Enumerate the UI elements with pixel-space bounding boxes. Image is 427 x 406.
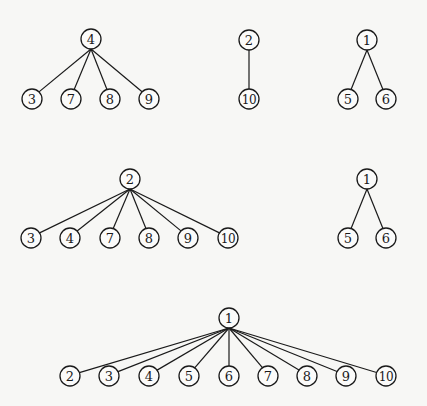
node-label: 7 [67, 92, 75, 107]
tree-child-node: 9 [336, 366, 356, 386]
tree-child-node: 5 [338, 89, 358, 109]
tree-child-node: 9 [139, 89, 159, 109]
node-label: 5 [185, 369, 193, 384]
node-label: 4 [87, 32, 95, 47]
tree-child-node: 5 [338, 228, 358, 248]
tree-edge [195, 328, 229, 368]
node-label: 10 [379, 370, 393, 384]
edges-layer [39, 49, 383, 373]
tree-child-node: 10 [218, 228, 238, 248]
tree-root-node: 1 [357, 169, 377, 189]
tree-forest-svg: 437892101562347891015612345678910 [0, 0, 427, 406]
node-label: 3 [105, 369, 113, 384]
tree-edge [39, 49, 91, 92]
node-label: 2 [245, 33, 253, 48]
node-label: 8 [145, 231, 153, 246]
tree-edge [367, 50, 383, 89]
node-label: 7 [264, 369, 272, 384]
tree-edge [367, 189, 383, 228]
tree-edge [77, 189, 130, 231]
tree-edge [74, 49, 91, 90]
tree-child-node: 8 [100, 89, 120, 109]
tree-edge [118, 328, 229, 372]
node-label: 1 [363, 172, 371, 187]
tree-edge [157, 328, 229, 370]
tree-edge [229, 328, 377, 373]
tree-child-node: 7 [258, 366, 278, 386]
node-label: 4 [66, 231, 74, 246]
tree-edge [351, 50, 367, 89]
tree-root-node: 4 [81, 29, 101, 49]
tree-child-node: 3 [21, 228, 41, 248]
node-label: 4 [145, 369, 153, 384]
tree-child-node: 6 [376, 228, 396, 248]
tree-child-node: 8 [139, 228, 159, 248]
tree-edge [229, 328, 337, 372]
tree-child-node: 8 [297, 366, 317, 386]
node-label: 9 [145, 92, 153, 107]
tree-edge [79, 328, 229, 373]
tree-child-node: 4 [139, 366, 159, 386]
tree-child-node: 7 [61, 89, 81, 109]
tree-child-node: 3 [99, 366, 119, 386]
tree-root-node: 1 [357, 30, 377, 50]
tree-child-node: 2 [60, 366, 80, 386]
node-label: 6 [382, 92, 390, 107]
node-label: 8 [106, 92, 114, 107]
tree-diagram-canvas: 437892101562347891015612345678910 [0, 0, 427, 406]
tree-child-node: 6 [376, 89, 396, 109]
node-label: 2 [66, 369, 74, 384]
tree-child-node: 9 [178, 228, 198, 248]
tree-child-node: 3 [22, 89, 42, 109]
node-label: 10 [221, 232, 235, 246]
node-label: 9 [184, 231, 192, 246]
node-label: 9 [342, 369, 350, 384]
tree-edge [351, 189, 367, 228]
node-label: 8 [303, 369, 311, 384]
tree-edge [91, 49, 142, 92]
tree-child-node: 10 [239, 89, 259, 109]
node-label: 6 [382, 231, 390, 246]
tree-edge [229, 328, 262, 368]
node-label: 6 [225, 369, 233, 384]
tree-edge [40, 189, 130, 233]
node-label: 3 [28, 92, 36, 107]
node-label: 7 [106, 231, 114, 246]
tree-child-node: 6 [219, 366, 239, 386]
node-label: 2 [126, 172, 134, 187]
tree-child-node: 5 [179, 366, 199, 386]
tree-child-node: 10 [376, 366, 396, 386]
node-label: 10 [242, 93, 256, 107]
node-label: 3 [27, 231, 35, 246]
tree-child-node: 4 [60, 228, 80, 248]
tree-root-node: 2 [120, 169, 140, 189]
tree-child-node: 7 [100, 228, 120, 248]
tree-edge [229, 328, 299, 370]
node-label: 1 [225, 311, 233, 326]
node-label: 5 [344, 92, 352, 107]
tree-root-node: 2 [239, 30, 259, 50]
tree-root-node: 1 [219, 308, 239, 328]
node-label: 1 [363, 33, 371, 48]
node-label: 5 [344, 231, 352, 246]
